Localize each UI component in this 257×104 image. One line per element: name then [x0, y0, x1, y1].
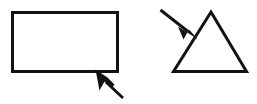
triangle-pointer-shaft [161, 10, 189, 32]
rectangle-pointer-arrow [96, 70, 124, 99]
shape-rectangle [13, 13, 118, 72]
shapes-diagram [0, 0, 257, 104]
figure-canvas [0, 0, 257, 104]
triangle-pointer-head [178, 27, 198, 40]
triangle-pointer-arrow [161, 10, 199, 40]
shape-triangle [174, 12, 247, 72]
